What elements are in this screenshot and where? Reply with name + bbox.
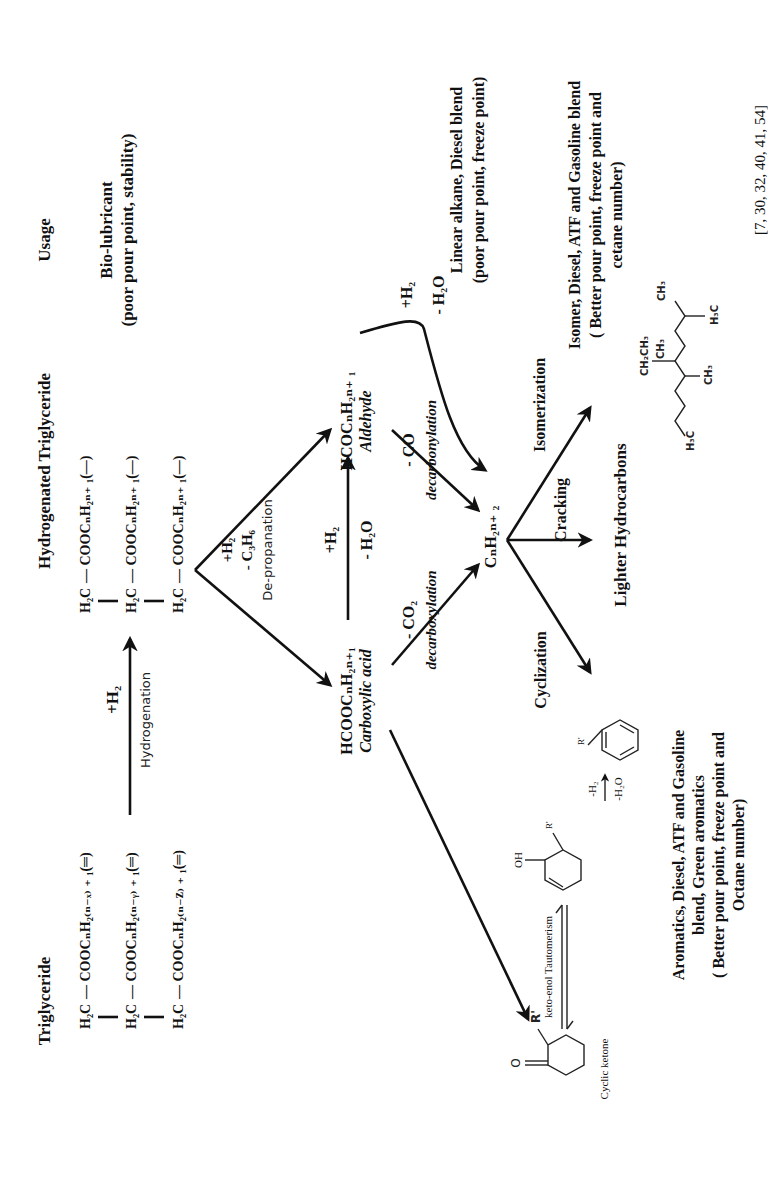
keto-enol-label: keto-enol Tautomerism (542, 916, 554, 1018)
forward-arrow-head (556, 905, 562, 913)
isomerization-label: Isomerization (531, 358, 548, 452)
hydrogenation-reagent: +H₂ (103, 686, 122, 714)
htg-row-3-head: H₂C (171, 588, 186, 613)
htg-row-2-chain: — COOCₙH₂ₙ₊ ₁(—) (124, 455, 140, 584)
bio-lubricant-properties: (poor pour point, stability) (118, 133, 137, 326)
alkane-formula: CₙH₂ₙ₊ ₂ (482, 505, 499, 568)
isomer-label-ch3-c: CH₃ (656, 281, 667, 301)
acid-to-cyclic-ketone-arrow (390, 730, 528, 1019)
cyclization-label: Cyclization (532, 631, 550, 708)
linear-alkane-usage: Linear alkane, Diesel blend (448, 87, 465, 273)
decarbonylation-reagent: - CO (400, 433, 417, 466)
isomer-usage-line-3: cetane number) (608, 161, 626, 268)
decarboxylation-label: decarboxylation (423, 570, 439, 669)
usage-title: Usage (35, 218, 54, 262)
cracking-label: Cracking (552, 478, 570, 542)
triglyceride-row-1-head: H₂C (78, 1004, 93, 1029)
decarbonylation-label: decarbonylation (423, 400, 439, 500)
enol-molecule: OH R' (512, 801, 581, 890)
hdo-reagent-h2: +H₂ (398, 282, 415, 309)
enol-r-label: R' (544, 821, 554, 829)
isomerization-arrow (507, 408, 590, 540)
htg-row-1-chain: — COOCₙH₂ₙ₊ ₁(—) (78, 455, 94, 584)
benzene-ring (602, 720, 638, 760)
ketone-oxygen-label: O (509, 1058, 523, 1067)
cyclohexenol-ring (545, 850, 581, 890)
triglyceride-row-1-chain: — COOCₙH₂₍ₙ₋ₓ₎ ₊ ₁(═) (78, 852, 94, 1000)
isomer-usage-line-1: Isomer, Diesel, ATF and Gasoline blend (566, 81, 583, 349)
cyclic-ketone-molecule: O R' Cyclic ketone (509, 1010, 610, 1099)
aromatization-reagent-h2: -H₂ (586, 781, 598, 797)
triglyceride-row-3-chain: — COOCₙH₂₍ₙ₋z₎ ₊ ₁(═) (171, 850, 187, 1000)
aromatics-usage-line-1: Aromatics, Diesel, ATF and Gasoline (670, 730, 687, 980)
acid-to-aldehyde-reagent-h2o: - H₂O (358, 520, 375, 559)
aromatics-usage-line-3: ( Better pour point, freeze point and (710, 732, 728, 978)
hydrogenation-label: Hydrogenation (138, 672, 153, 768)
benzene-r-bond (588, 730, 602, 745)
triglyceride-row-2-head: H₂C (124, 1004, 139, 1029)
triglyceride-structure: H₂C — COOCₙH₂₍ₙ₋ₓ₎ ₊ ₁(═) H₂C — COOCₙH₂₍… (78, 850, 187, 1029)
carboxylic-acid-formula: HCOOCₙH₂ₙ₊₁ (338, 647, 355, 755)
keto-enol-equilibrium-arrows: keto-enol Tautomerism (542, 905, 573, 1029)
isomer-label-ch3-b: CH₃ (655, 339, 666, 359)
aldehyde-formula: HCOCₙH₂ₙ₊ ₁ (338, 371, 355, 470)
hydrogenated-triglyceride-title: Hydrogenated Triglyceride (35, 373, 54, 569)
hdo-reagent-h2o: - H₂O (430, 275, 447, 314)
htg-row-2-head: H₂C (124, 588, 139, 613)
htg-row-1-head: H₂C (78, 588, 93, 613)
triglyceride-row-3-head: H₂C (171, 1004, 186, 1029)
reaction-pathway-diagram: Triglyceride H₂C — COOCₙH₂₍ₙ₋ₓ₎ ₊ ₁(═) H… (0, 0, 769, 1191)
ketone-r-label: R' (529, 1010, 543, 1023)
isomer-label-h3c: H₃C (709, 305, 720, 325)
htg-row-3-chain: — COOCₙH₂ₙ₊ ₁(—) (171, 455, 187, 584)
enol-r-substituent-bond (553, 833, 563, 850)
depropanation-reagent-c3h6: - C₃H₆ (239, 529, 255, 570)
isomer-molecule: H₃C CH₂CH₃ CH₃ CH₃ H₃C CH₃ (639, 281, 720, 451)
triglyceride-row-2-chain: — COOCₙH₂₍ₙ₋ᵧ₎ ₊ ₁(═) (124, 852, 140, 1000)
cyclohexanone-ring (548, 1035, 584, 1075)
enol-oh-label: OH (512, 852, 524, 868)
ketone-r-bond (538, 1029, 548, 1045)
aromatization-reagent-h2o: -H₂O (612, 777, 624, 800)
decarboxylation-reagent: - CO₂ (400, 601, 417, 639)
diagram-canvas: Triglyceride H₂C — COOCₙH₂₍ₙ₋ₓ₎ ₊ ₁(═) H… (0, 0, 769, 1191)
triglyceride-title: Triglyceride (35, 956, 54, 1045)
aromatics-usage-line-4: Octane number) (730, 799, 748, 911)
isomer-label-ch2ch3: CH₂CH₃ (639, 336, 650, 376)
carboxylic-acid-name: Carboxylic acid (357, 648, 375, 753)
bio-lubricant-label: Bio-lubricant (97, 181, 116, 279)
isomer-usage-line-2: ( Better pour point, freeze point and (587, 92, 605, 338)
aldehyde-name: Aldehyde (357, 390, 375, 452)
isomer-label-ch3-a: CH₃ (703, 365, 714, 385)
cyclic-ketone-label: Cyclic ketone (598, 1038, 610, 1099)
isomer-label-h3c-end: H₃C (685, 431, 696, 451)
depropanation-label: De-propanation (260, 499, 275, 600)
acid-to-aldehyde-reagent-h2: +H₂ (322, 527, 339, 554)
depropanation-reagent-h2: +H₂ (219, 537, 235, 562)
aromatic-molecule: R' (576, 720, 638, 760)
hydrogenated-triglyceride-structure: H₂C — COOCₙH₂ₙ₊ ₁(—) H₂C — COOCₙH₂ₙ₊ ₁(—… (78, 455, 187, 613)
lighter-hydrocarbons-label: Lighter Hydrocarbons (611, 443, 630, 607)
aromatics-usage-line-2: blend, Green aromatics (690, 775, 707, 935)
reverse-arrow-head (567, 1021, 573, 1029)
benzene-r-label: R' (576, 737, 586, 745)
linear-alkane-properties: (poor pour point, freeze point) (470, 77, 488, 284)
isomer-backbone (675, 301, 685, 436)
reference-citation: [7, 30, 32, 40, 41, 54] (752, 105, 768, 235)
